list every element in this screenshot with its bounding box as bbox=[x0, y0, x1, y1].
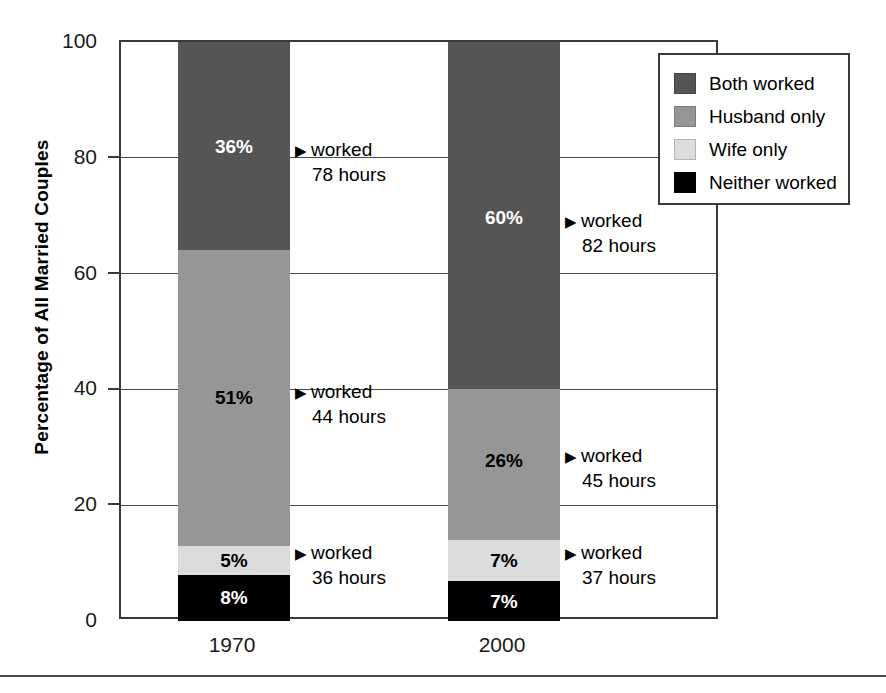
annotation-line1: worked bbox=[311, 542, 372, 563]
bar-segment-1970-neither-worked: 8% bbox=[178, 575, 290, 621]
bar-segment-2000-husband-only: 26% bbox=[448, 389, 560, 540]
triangle-marker-icon: ▶ bbox=[565, 213, 581, 230]
legend-item-neither-worked: Neither worked bbox=[674, 166, 848, 199]
bar-value-2000-both-worked: 60% bbox=[448, 208, 560, 227]
legend-swatch-wife-only bbox=[674, 139, 696, 160]
annotation-line2: 36 hours bbox=[295, 566, 386, 590]
legend-label-wife-only: Wife only bbox=[709, 140, 787, 159]
annotation-line1: worked bbox=[311, 139, 372, 160]
legend-label-husband-only: Husband only bbox=[709, 107, 825, 126]
annotation-1970-both-worked: ▶worked 78 hours bbox=[295, 138, 386, 187]
bar-segment-2000-neither-worked: 7% bbox=[448, 581, 560, 621]
y-tick-mark-40 bbox=[108, 388, 119, 390]
triangle-marker-icon: ▶ bbox=[295, 545, 311, 562]
y-tick-label-0: 0 bbox=[45, 609, 97, 630]
y-tick-label-100: 100 bbox=[45, 30, 97, 51]
bar-value-2000-wife-only: 7% bbox=[448, 551, 560, 570]
bar-segment-1970-husband-only: 51% bbox=[178, 250, 290, 546]
annotation-line2: 37 hours bbox=[565, 566, 656, 590]
chart-container: Percentage of All Married Couples 100 80… bbox=[0, 0, 886, 693]
legend-item-husband-only: Husband only bbox=[674, 100, 848, 133]
legend-label-both-worked: Both worked bbox=[709, 74, 815, 93]
annotation-2000-both-worked: ▶worked 82 hours bbox=[565, 209, 656, 258]
bar-segment-2000-both-worked: 60% bbox=[448, 42, 560, 389]
y-tick-mark-80 bbox=[108, 156, 119, 158]
x-tick-label-1970: 1970 bbox=[162, 634, 302, 655]
bar-segment-1970-both-worked: 36% bbox=[178, 42, 290, 250]
bar-value-2000-husband-only: 26% bbox=[448, 451, 560, 470]
y-tick-mark-20 bbox=[108, 503, 119, 505]
annotation-line2: 45 hours bbox=[565, 469, 656, 493]
y-tick-label-80: 80 bbox=[45, 146, 97, 167]
annotation-line2: 82 hours bbox=[565, 234, 656, 258]
bar-value-1970-both-worked: 36% bbox=[178, 137, 290, 156]
y-tick-label-40: 40 bbox=[45, 377, 97, 398]
legend-item-both-worked: Both worked bbox=[674, 67, 848, 100]
plot-area: 36% 51% 5% 8% 60% 26% bbox=[119, 40, 718, 619]
legend-swatch-husband-only bbox=[674, 106, 696, 127]
y-tick-label-60: 60 bbox=[45, 262, 97, 283]
bar-segment-1970-wife-only: 5% bbox=[178, 546, 290, 575]
bar-value-2000-neither-worked: 7% bbox=[448, 592, 560, 611]
annotation-1970-husband-only: ▶worked 44 hours bbox=[295, 380, 386, 429]
legend-label-neither-worked: Neither worked bbox=[709, 173, 837, 192]
bar-value-1970-wife-only: 5% bbox=[178, 551, 290, 570]
triangle-marker-icon: ▶ bbox=[565, 448, 581, 465]
y-tick-mark-60 bbox=[108, 272, 119, 274]
legend-swatch-both-worked bbox=[674, 73, 696, 94]
annotation-line1: worked bbox=[581, 445, 642, 466]
annotation-2000-wife-only: ▶worked 37 hours bbox=[565, 541, 656, 590]
annotation-line1: worked bbox=[581, 210, 642, 231]
legend-swatch-neither-worked bbox=[674, 172, 696, 193]
annotation-1970-wife-only: ▶worked 36 hours bbox=[295, 541, 386, 590]
legend: Both worked Husband only Wife only Neith… bbox=[658, 53, 850, 205]
legend-item-wife-only: Wife only bbox=[674, 133, 848, 166]
triangle-marker-icon: ▶ bbox=[295, 142, 311, 159]
bar-value-1970-neither-worked: 8% bbox=[178, 588, 290, 607]
annotation-line2: 78 hours bbox=[295, 163, 386, 187]
y-tick-label-20: 20 bbox=[45, 493, 97, 514]
triangle-marker-icon: ▶ bbox=[295, 384, 311, 401]
annotation-2000-husband-only: ▶worked 45 hours bbox=[565, 444, 656, 493]
annotation-line1: worked bbox=[581, 542, 642, 563]
x-tick-label-2000: 2000 bbox=[432, 634, 572, 655]
footer-divider bbox=[0, 675, 886, 677]
triangle-marker-icon: ▶ bbox=[565, 545, 581, 562]
bar-segment-2000-wife-only: 7% bbox=[448, 540, 560, 581]
bar-value-1970-husband-only: 51% bbox=[178, 388, 290, 407]
annotation-line1: worked bbox=[311, 381, 372, 402]
annotation-line2: 44 hours bbox=[295, 405, 386, 429]
